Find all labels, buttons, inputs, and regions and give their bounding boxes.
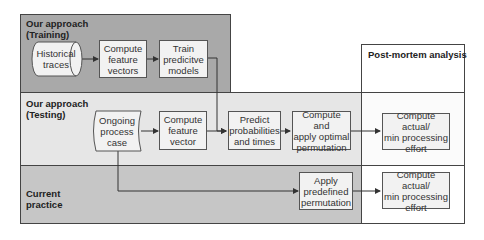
effort-testing-node: Compute actual/ min processing effort [382,113,450,150]
effort-current-node: Compute actual/ min processing effort [382,172,450,209]
train-models-node: Train predicitve models [159,40,208,78]
apply-optimal-node: Compute and apply optimal permutation [292,111,351,150]
arrow-case-to-predefined [118,150,298,191]
apply-predefined-node: Apply predefined permutation [299,172,353,210]
compute-feature-vector-node: Compute feature vector [159,111,207,150]
historical-traces-node: Historical traces [34,42,78,76]
predict-node: Predict probabilities and times [228,111,281,150]
compute-feature-vectors-node: Compute feature vectors [99,40,147,78]
arrow-models-to-predict [208,58,226,131]
ongoing-case-node: Ongoing process case [93,111,141,151]
